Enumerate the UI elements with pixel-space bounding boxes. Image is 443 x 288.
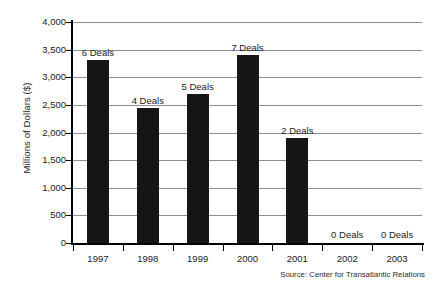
y-tick-mark: [66, 133, 73, 134]
y-tick-label: 0: [20, 238, 66, 248]
y-tick-mark: [66, 160, 73, 161]
y-tick-label: 4,000: [20, 17, 66, 27]
x-tick-mark: [73, 245, 74, 251]
y-tick-label: 1,500: [20, 155, 66, 165]
y-tick-mark: [66, 215, 73, 216]
x-tick-label: 1998: [120, 253, 176, 264]
x-tick-mark: [173, 245, 174, 251]
x-tick-label: 2002: [319, 253, 375, 264]
y-tick-label: 2,000: [20, 128, 66, 138]
y-tick-label: 500: [20, 210, 66, 220]
x-tick-mark: [372, 245, 373, 251]
x-tick-mark: [223, 245, 224, 251]
y-tick-mark: [66, 22, 73, 23]
y-tick-label: 2,500: [20, 100, 66, 110]
y-tick-mark: [66, 243, 73, 244]
y-tick-mark: [66, 50, 73, 51]
y-tick-label: 3,500: [20, 45, 66, 55]
deal-count-label: 4 Deals: [117, 95, 179, 106]
deal-count-label: 7 Deals: [217, 42, 279, 53]
x-tick-label: 2001: [269, 253, 325, 264]
y-tick-label: 3,000: [20, 72, 66, 82]
bar: [137, 108, 159, 243]
x-axis-line: [71, 243, 424, 245]
x-tick-label: 2003: [369, 253, 425, 264]
x-tick-label: 1999: [170, 253, 226, 264]
bar-chart: Millions of Dollars ($) 05001,0001,5002,…: [0, 0, 443, 288]
y-tick-mark: [66, 105, 73, 106]
bar: [237, 55, 259, 243]
x-tick-mark: [272, 245, 273, 251]
x-tick-label: 2000: [220, 253, 276, 264]
x-tick-mark: [322, 245, 323, 251]
y-tick-label: 1,000: [20, 183, 66, 193]
deal-count-label: 0 Deals: [366, 229, 428, 240]
x-tick-mark: [123, 245, 124, 251]
bar: [187, 94, 209, 243]
bar: [87, 60, 109, 243]
deal-count-label: 5 Deals: [167, 81, 229, 92]
gridline: [73, 22, 422, 23]
bar: [286, 138, 308, 243]
deal-count-label: 2 Deals: [266, 125, 328, 136]
x-tick-label: 1997: [70, 253, 126, 264]
y-axis-ticks: 05001,0001,5002,0002,5003,0003,5004,000: [16, 0, 66, 288]
y-tick-mark: [66, 77, 73, 78]
source-note: Source: Center for Transatlantic Relatio…: [280, 270, 425, 280]
deal-count-label: 6 Deals: [67, 47, 129, 58]
y-tick-mark: [66, 188, 73, 189]
x-tick-mark: [422, 245, 423, 251]
